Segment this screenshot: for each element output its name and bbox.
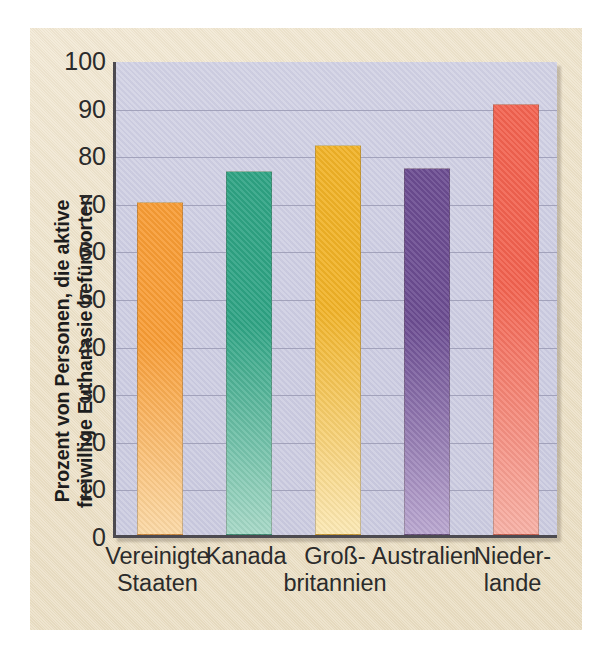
- y-axis-tick-label: 100: [64, 49, 106, 74]
- x-axis-tick-label-line2: Staaten: [99, 570, 216, 597]
- y-axis-tick-label: 90: [78, 97, 106, 122]
- y-axis-tick-label: 70: [78, 192, 106, 217]
- bar: [493, 104, 539, 535]
- y-axis-tick-labels: 1009080706050403020100: [20, 0, 106, 658]
- x-axis-tick-label-line1: Kanada: [206, 543, 287, 569]
- y-axis-tick-label: 20: [78, 430, 106, 455]
- x-axis-tick-label: Nieder-lande: [454, 543, 571, 597]
- gridline: [116, 110, 557, 111]
- bar: [315, 145, 361, 535]
- bar: [137, 202, 183, 535]
- y-axis-tick-label: 80: [78, 144, 106, 169]
- x-axis-tick-labels: VereinigteStaatenKanadaGroß-britannienAu…: [113, 543, 565, 623]
- y-axis-tick-label: 50: [78, 287, 106, 312]
- bar: [226, 171, 272, 535]
- y-axis-tick-label: 40: [78, 335, 106, 360]
- y-axis-tick-label: 60: [78, 239, 106, 264]
- y-axis-tick-label: 30: [78, 382, 106, 407]
- figure: Prozent von Personen, die aktive freiwil…: [0, 0, 609, 658]
- y-axis-tick-label: 10: [78, 477, 106, 502]
- bar: [404, 168, 450, 535]
- plot-area: [113, 62, 557, 538]
- x-axis-tick-label-line2: britannien: [277, 570, 394, 597]
- x-axis-tick-label-line1: Nieder-: [474, 543, 551, 569]
- x-axis-tick-label-line2: lande: [454, 570, 571, 597]
- x-axis-tick-label-line1: Groß-: [304, 543, 365, 569]
